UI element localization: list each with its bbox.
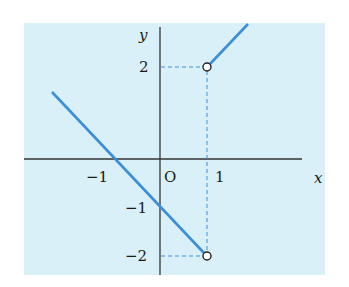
piecewise-function-graph: y x O −1 1 2 −1 −2 [0, 0, 349, 287]
right-branch-line [210, 24, 248, 64]
y-tick-neg2: −2 [125, 247, 147, 265]
open-circle-upper [203, 63, 211, 71]
x-tick-neg1: −1 [86, 168, 108, 186]
open-circle-lower [203, 252, 211, 260]
y-tick-2: 2 [139, 58, 149, 76]
x-tick-1: 1 [215, 168, 225, 186]
dashed-guides [161, 67, 207, 256]
x-axis-label: x [314, 169, 323, 187]
y-axis-label: y [138, 26, 148, 44]
y-tick-neg1: −1 [125, 199, 147, 217]
left-branch-line [52, 92, 204, 253]
origin-label: O [164, 168, 176, 186]
